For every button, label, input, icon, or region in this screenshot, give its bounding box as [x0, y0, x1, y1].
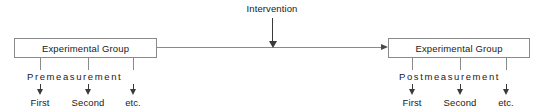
research-design-diagram: Experimental Group Intervention Experime…	[0, 0, 547, 112]
measurement-arrow-down-icon	[457, 89, 463, 95]
phase-caption-premeasurement: Premeasurement	[27, 71, 122, 82]
intervention-arrow-down-icon	[269, 41, 277, 48]
measurement-tick	[412, 58, 413, 70]
measurement-arrow-down-icon	[130, 89, 136, 95]
measurement-tick	[88, 58, 89, 70]
measurement-arrow-down-icon	[85, 89, 91, 95]
experimental-group-box-post: Experimental Group	[388, 38, 530, 58]
measurement-tick	[506, 58, 507, 70]
experimental-group-label-post: Experimental Group	[415, 43, 502, 54]
measurement-arrow-down-icon	[409, 89, 415, 95]
measurement-arrow-down-icon	[37, 89, 43, 95]
connector-arrowhead-icon	[381, 44, 388, 50]
measurement-ordinal-label: etc.	[105, 97, 161, 108]
measurement-arrow-down-icon	[503, 89, 509, 95]
measurement-tick	[40, 58, 41, 70]
phase-caption-postmeasurement: Postmeasurement	[399, 71, 500, 82]
measurement-tick	[460, 58, 461, 70]
experimental-group-box-pre: Experimental Group	[14, 38, 157, 58]
measurement-tick	[133, 58, 134, 70]
intervention-arrow-shaft	[272, 18, 273, 42]
measurement-ordinal-label: etc.	[478, 97, 534, 108]
intervention-label: Intervention	[232, 3, 312, 14]
experimental-group-label-pre: Experimental Group	[42, 43, 129, 54]
